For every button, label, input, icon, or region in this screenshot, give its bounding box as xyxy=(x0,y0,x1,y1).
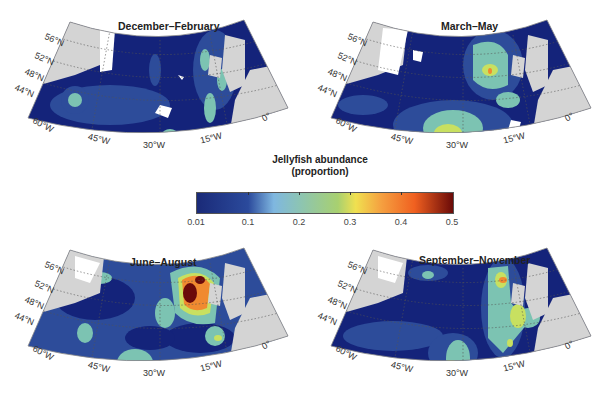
colorbar-gradient xyxy=(196,192,454,214)
colorbar-title: Jellyfish abundance (proportion) xyxy=(180,154,460,178)
map-panel-dec-feb: December–February 56°N 52°N 48°N 44°N 60… xyxy=(0,0,303,175)
colorbar-tick-0.4: 0.4 xyxy=(395,217,408,227)
lon-label-30w: 30°W xyxy=(143,368,165,378)
colorbar-title-line2: (proportion) xyxy=(180,166,460,178)
colorbar-tick-0.5: 0.5 xyxy=(446,217,459,227)
lon-label-30w: 30°W xyxy=(143,140,165,150)
map-panel-jun-aug: June–August 56°N 52°N 48°N 44°N 60°W 45°… xyxy=(0,228,303,403)
lon-label-30w: 30°W xyxy=(446,368,468,378)
panel-title: March–May xyxy=(441,20,498,32)
panel-title: December–February xyxy=(118,20,220,32)
map-panel-mar-may: March–May 56°N 52°N 48°N 44°N 60°W 45°W … xyxy=(303,0,606,175)
colorbar-title-line1: Jellyfish abundance xyxy=(180,154,460,166)
colorbar-tick-0.2: 0.2 xyxy=(293,217,306,227)
panel-title: September–November xyxy=(419,254,530,266)
map-panel-sep-nov: September–November 56°N 52°N 48°N 44°N 6… xyxy=(303,228,606,403)
panel-title: June–August xyxy=(130,256,197,268)
colorbar-tick-0.01: 0.01 xyxy=(187,217,205,227)
colorbar-tickmark xyxy=(350,192,351,195)
colorbar-tickmark xyxy=(248,192,249,195)
colorbar-tickmark xyxy=(401,192,402,195)
map-sep-nov xyxy=(303,228,606,388)
colorbar-tickmark xyxy=(299,192,300,195)
colorbar-tick-0.3: 0.3 xyxy=(344,217,357,227)
lon-label-30w: 30°W xyxy=(446,140,468,150)
colorbar-tick-0.1: 0.1 xyxy=(242,217,255,227)
map-jun-aug xyxy=(0,228,303,388)
colorbar: Jellyfish abundance (proportion) 0.01 0.… xyxy=(180,150,460,230)
